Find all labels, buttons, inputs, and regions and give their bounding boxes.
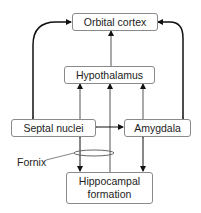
node-septal-nuclei: Septal nuclei: [11, 119, 96, 137]
edge-amygdala-orbital: [158, 22, 183, 118]
node-label: Septal nuclei: [23, 123, 83, 134]
node-orbital-cortex: Orbital cortex: [72, 13, 158, 31]
node-hypothalamus: Hypothalamus: [64, 66, 155, 84]
fornix-label: Fornix: [17, 156, 46, 168]
node-label: Hypothalamus: [76, 70, 143, 81]
node-amygdala: Amygdala: [124, 119, 191, 137]
node-label-line-1: Hippocampal: [79, 175, 140, 188]
fornix-leader-line: [46, 153, 74, 160]
node-hippocampal-formation: Hippocampal formation: [66, 172, 153, 204]
node-label: Amygdala: [134, 123, 181, 134]
node-label-line-2: formation: [88, 188, 132, 201]
node-label: Orbital cortex: [84, 17, 146, 28]
